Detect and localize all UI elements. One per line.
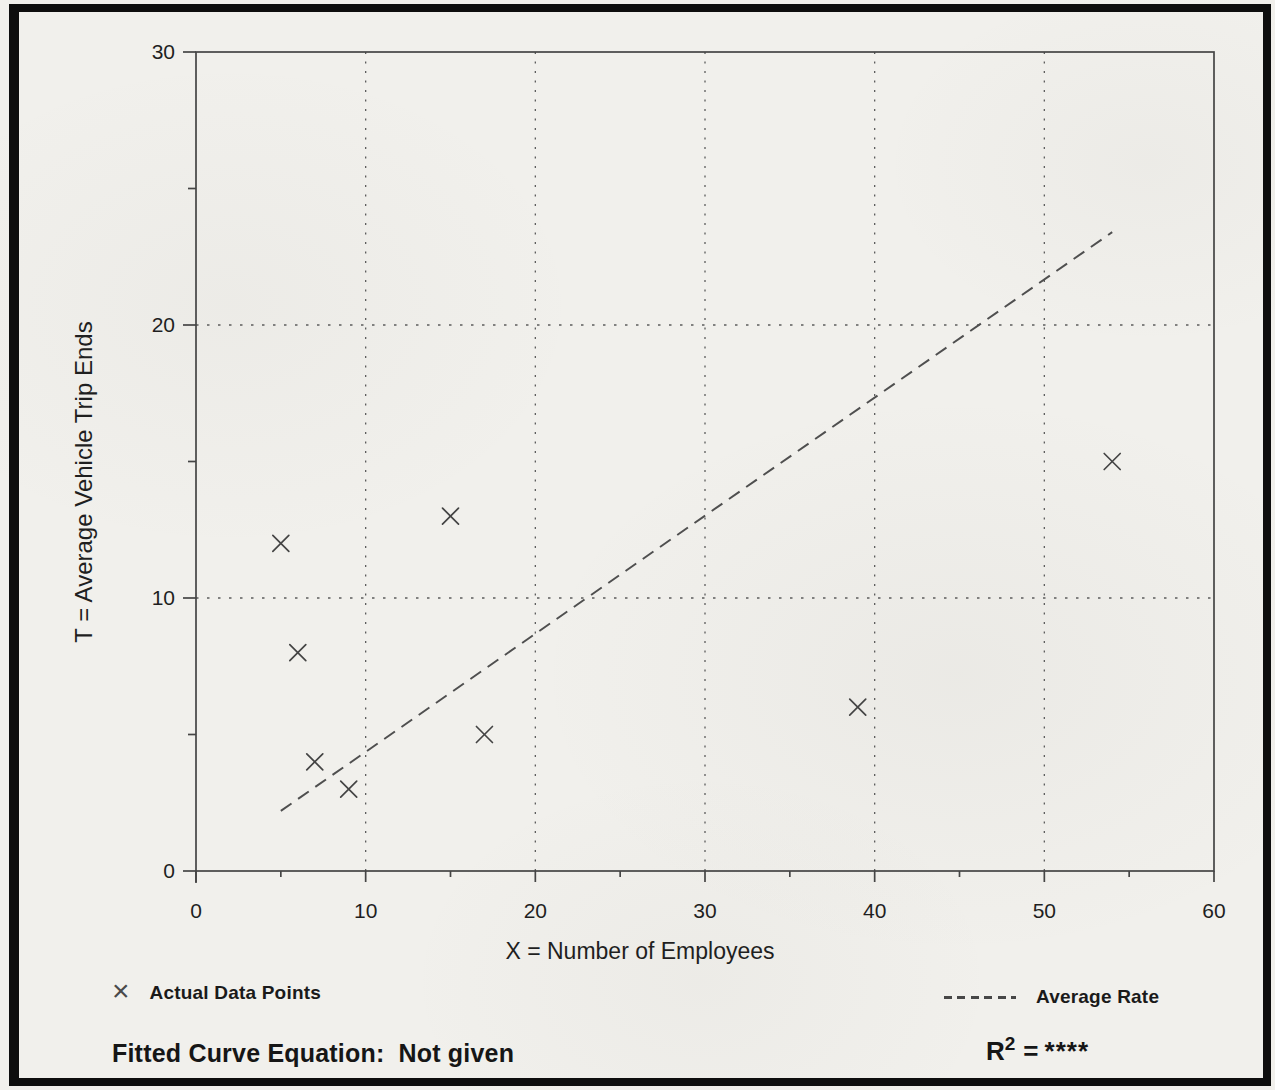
r-squared-value: **** — [1045, 1036, 1089, 1066]
x-tick-label: 30 — [693, 899, 716, 922]
average-rate-line — [281, 232, 1112, 811]
x-tick-label: 0 — [190, 899, 202, 922]
dashed-line-icon — [944, 996, 1016, 999]
legend-line-label: Average Rate — [1036, 986, 1159, 1008]
x-axis-title: X = Number of Employees — [505, 938, 774, 965]
y-axis-title: T = Average Vehicle Trip Ends — [70, 321, 98, 642]
y-tick-label: 30 — [152, 40, 175, 63]
fitted-curve-equation: Fitted Curve Equation:Not given — [112, 1039, 514, 1068]
x-tick-label: 50 — [1033, 899, 1056, 922]
y-tick-label: 0 — [163, 859, 175, 882]
scatter-plot: 01020304050600102030 — [0, 0, 1275, 1090]
x-marker-icon: × — [112, 976, 130, 1006]
x-tick-label: 20 — [524, 899, 547, 922]
fitted-curve-label: Fitted Curve Equation: — [112, 1039, 384, 1067]
scanned-report-page: 01020304050600102030 T = Average Vehicle… — [0, 0, 1275, 1090]
y-tick-label: 20 — [152, 313, 175, 336]
legend-points-label: Actual Data Points — [150, 982, 321, 1004]
x-tick-label: 10 — [354, 899, 377, 922]
fitted-curve-value: Not given — [398, 1039, 514, 1067]
x-tick-label: 60 — [1202, 899, 1225, 922]
r-squared-exponent: 2 — [1005, 1033, 1016, 1054]
legend-actual-data-points: × Actual Data Points — [112, 976, 321, 1010]
x-tick-label: 40 — [863, 899, 886, 922]
r-squared-equals: = — [1023, 1036, 1038, 1066]
r-squared-statistic: R2=**** — [986, 1036, 1089, 1067]
legend-average-rate: Average Rate — [944, 982, 1159, 1012]
r-squared-base: R — [986, 1036, 1005, 1066]
y-tick-label: 10 — [152, 586, 175, 609]
